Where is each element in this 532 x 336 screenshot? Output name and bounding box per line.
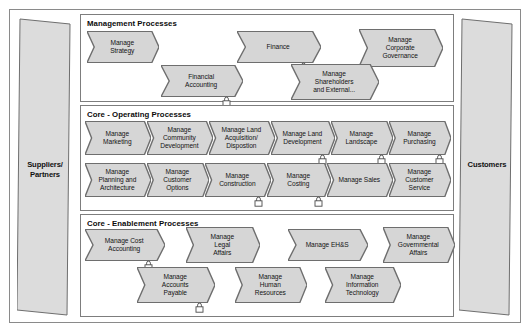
actor-customers[interactable]: Customers xyxy=(459,17,515,317)
process-label: Manage Planning and Architecture xyxy=(91,163,144,197)
process-manage-strategy[interactable]: Manage Strategy xyxy=(87,31,159,63)
process-label: Manage Corporate Governance xyxy=(367,29,434,67)
process-manage-land-acquisition-dispostion[interactable]: Manage Land Acquisition/ Dispostion xyxy=(209,121,275,155)
panel-body-enablement: Manage Cost AccountingManage Legal Affai… xyxy=(81,215,453,316)
process-manage-community-development[interactable]: Manage Community Development xyxy=(147,121,213,155)
process-manage-sales[interactable]: Manage Sales xyxy=(327,163,393,197)
process-label: Manage Strategy xyxy=(93,31,151,63)
process-manage-land-development[interactable]: Manage Land Development xyxy=(271,121,335,155)
process-label: Manage Costing xyxy=(273,163,324,197)
lock-icon xyxy=(314,196,323,207)
process-label: Manage Cost Accounting xyxy=(92,229,156,261)
panel-core-operating-processes: Core - Operating Processes Manage Market… xyxy=(80,105,454,211)
process-label: Manage Customer Options xyxy=(153,163,203,197)
process-label: Manage Customer Service xyxy=(395,163,445,197)
process-label: Manage Sales xyxy=(333,163,386,197)
process-label: Manage Legal Affairs xyxy=(193,227,252,263)
diagram-canvas: Suppliers/ Partners Customers Management… xyxy=(0,0,532,336)
process-manage-corporate-governance[interactable]: Manage Corporate Governance xyxy=(359,29,443,67)
process-label: Manage Land Development xyxy=(277,121,328,155)
process-label: Finance xyxy=(245,31,312,63)
process-manage-customer-options[interactable]: Manage Customer Options xyxy=(147,163,209,197)
process-label: Manage Information Technology xyxy=(332,267,393,303)
panel-management-processes: Management Processes Manage StrategyFina… xyxy=(80,14,454,102)
process-manage-costing[interactable]: Manage Costing xyxy=(267,163,331,197)
process-manage-information-technology[interactable]: Manage Information Technology xyxy=(325,267,401,303)
process-manage-shareholders-and-external[interactable]: Manage Shareholders and External... xyxy=(291,64,379,100)
process-manage-customer-service[interactable]: Manage Customer Service xyxy=(389,163,451,197)
panel-body-operating: Manage MarketingManage Community Develop… xyxy=(81,106,453,210)
process-manage-legal-affairs[interactable]: Manage Legal Affairs xyxy=(186,227,260,263)
process-manage-cost-accounting[interactable]: Manage Cost Accounting xyxy=(85,229,165,261)
process-financial-accounting[interactable]: Financial Accounting xyxy=(161,65,243,97)
actor-label-suppliers-partners: Suppliers/ Partners xyxy=(17,160,73,179)
panel-core-enablement-processes: Core - Enablement Processes Manage Cost … xyxy=(80,214,454,317)
process-manage-construction[interactable]: Manage Construction xyxy=(205,163,271,197)
panel-body-management: Manage StrategyFinanceManage Corporate G… xyxy=(81,15,453,101)
process-manage-accounts-payable[interactable]: Manage Accounts Payable xyxy=(137,267,215,303)
process-finance[interactable]: Finance xyxy=(237,31,321,63)
process-label: Manage Land Acquisition/ Dispostion xyxy=(215,121,268,155)
process-label: Manage EH&S xyxy=(295,229,359,261)
process-label: Financial Accounting xyxy=(168,65,234,97)
process-label: Manage Marketing xyxy=(91,121,144,155)
process-label: Manage Construction xyxy=(211,163,264,197)
process-label: Manage Governmental Affairs xyxy=(389,227,447,263)
process-manage-planning-and-architecture[interactable]: Manage Planning and Architecture xyxy=(85,163,151,197)
process-label: Manage Human Resources xyxy=(241,267,299,303)
process-manage-landscape[interactable]: Manage Landscape xyxy=(331,121,393,155)
actor-label-customers: Customers xyxy=(459,160,515,170)
process-manage-marketing[interactable]: Manage Marketing xyxy=(85,121,151,155)
lock-icon xyxy=(254,196,263,207)
process-manage-ehands[interactable]: Manage EH&S xyxy=(288,229,368,261)
process-manage-human-resources[interactable]: Manage Human Resources xyxy=(235,267,307,303)
lock-icon xyxy=(195,302,204,313)
actor-suppliers-partners[interactable]: Suppliers/ Partners xyxy=(17,17,73,317)
process-manage-governmental-affairs[interactable]: Manage Governmental Affairs xyxy=(383,227,455,263)
process-label: Manage Purchasing xyxy=(395,121,445,155)
process-label: Manage Accounts Payable xyxy=(144,267,206,303)
process-manage-purchasing[interactable]: Manage Purchasing xyxy=(389,121,451,155)
process-label: Manage Landscape xyxy=(337,121,387,155)
process-label: Manage Community Development xyxy=(153,121,206,155)
process-label: Manage Shareholders and External... xyxy=(299,64,369,100)
